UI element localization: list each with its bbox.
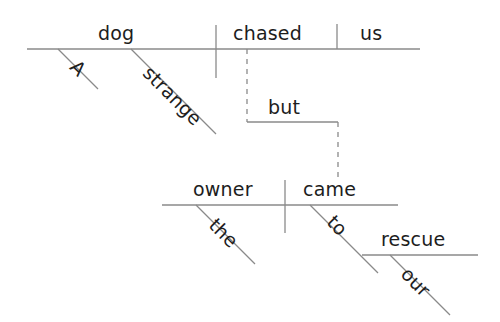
diagram-lines-svg bbox=[0, 0, 500, 322]
word-rescue: rescue bbox=[381, 230, 445, 249]
word-came: came bbox=[303, 180, 356, 199]
word-chased: chased bbox=[233, 24, 302, 43]
word-but: but bbox=[268, 98, 300, 117]
sentence-diagram-canvas: dog chased us A strange but owner came t… bbox=[0, 0, 500, 322]
word-us: us bbox=[360, 24, 382, 43]
word-dog: dog bbox=[98, 24, 134, 43]
word-owner: owner bbox=[193, 180, 253, 199]
